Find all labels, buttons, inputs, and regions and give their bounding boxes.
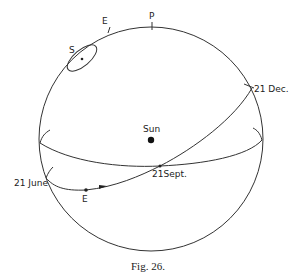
- equator-right-tick: [253, 128, 262, 140]
- star-dot: [81, 58, 84, 61]
- earth-orbit-label: E: [82, 194, 88, 204]
- equator-left-tick: [40, 130, 50, 143]
- celestial-equator: [40, 140, 262, 166]
- june-tick: [46, 167, 53, 178]
- star-label: S: [69, 45, 75, 55]
- earth-dot: [84, 188, 88, 192]
- june-label: 21 June: [14, 178, 48, 188]
- sept-point: [159, 165, 162, 168]
- figure-caption: Fig. 26.: [131, 260, 165, 272]
- sun-dot: [148, 137, 154, 143]
- pole-label: P: [149, 11, 155, 21]
- celestial-sphere-diagram: P E S Sun 21 Dec. 21Sept. 21 June E Fig.…: [0, 0, 294, 275]
- earth-top-tick: [108, 27, 110, 33]
- sept-label: 21Sept.: [152, 169, 187, 179]
- earth-top-label: E: [102, 16, 108, 26]
- figure-26: P E S Sun 21 Dec. 21Sept. 21 June E Fig.…: [0, 0, 294, 275]
- sun-label: Sun: [143, 124, 160, 134]
- dec-label: 21 Dec.: [254, 84, 289, 94]
